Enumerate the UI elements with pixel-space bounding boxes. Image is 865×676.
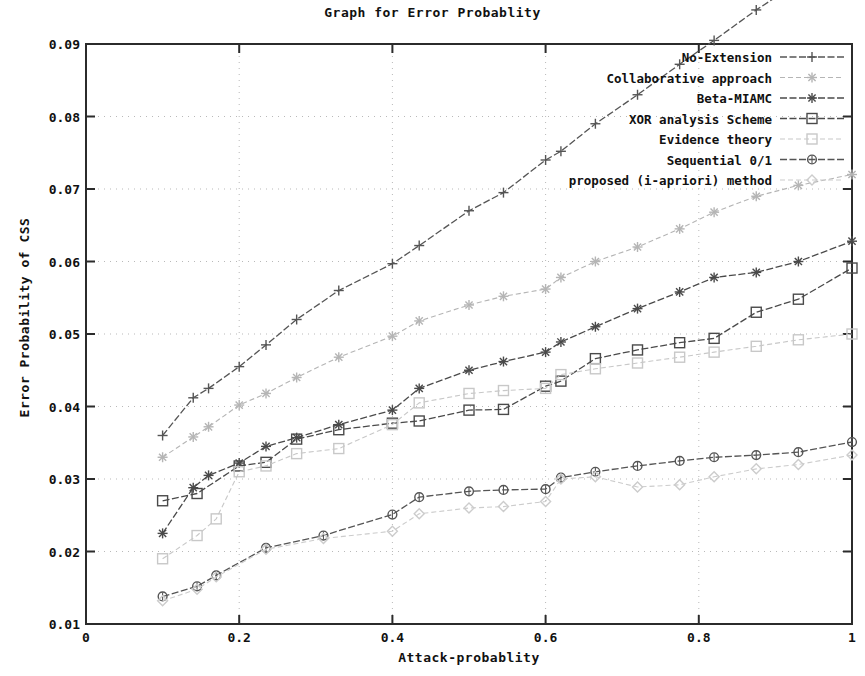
legend-item-4[interactable]: Evidence theory [659,132,772,147]
error-probability-chart: Graph for Error Probablity Error Probabi… [0,0,865,676]
legend-item-1[interactable]: Collaborative approach [606,70,772,85]
legend-item-2[interactable]: Beta-MIAMC [697,91,772,106]
series-1 [158,170,857,463]
legend-item-3[interactable]: XOR analysis Scheme [629,111,772,126]
series-6 [158,450,857,606]
series-0 [158,0,857,441]
legend-item-0[interactable]: No-Extension [682,50,772,65]
legend-item-5[interactable]: Sequential 0/1 [667,152,772,167]
legend-item-6[interactable]: proposed (i-apriori) method [569,173,772,188]
